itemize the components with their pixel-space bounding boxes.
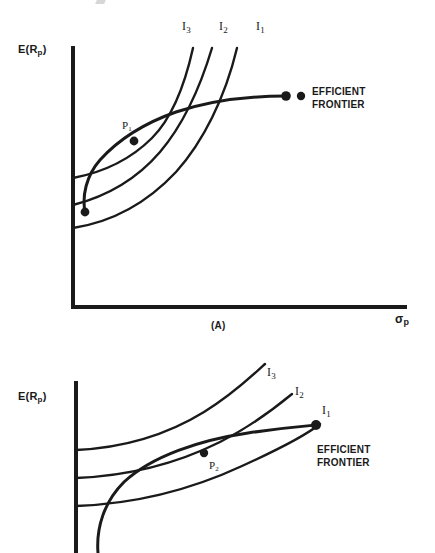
panel-a-y-axis-label: E(Rp) (18, 43, 47, 58)
panel-a-frontier-label-line2: FRONTIER (312, 99, 365, 112)
panel-a-caption: (A) (211, 320, 225, 331)
panel-b-curve-label-i2: I2 (295, 385, 304, 400)
panel-b-tangency-point (200, 449, 208, 457)
panel-a-minimum-variance-point (81, 208, 90, 217)
panel-b-curve-i3 (76, 364, 265, 450)
panel-a-curve-label-i3: I3 (182, 20, 191, 35)
panel-b: E(Rp) I3 I2 I1 P2 EFFICIENT FRONTIER (0, 340, 435, 553)
panel-b-curve-label-i3: I3 (267, 366, 276, 381)
panel-a-curve-label-i1: I1 (256, 20, 265, 35)
panel-a-frontier-endpoint (281, 91, 291, 101)
panel-b-frontier-label-line2: FRONTIER (317, 457, 370, 470)
panel-a-frontier-label-line1: EFFICIENT (312, 86, 365, 99)
panel-b-y-axis-label: E(Rp) (18, 390, 47, 405)
panel-a-tangency-point (130, 137, 139, 146)
panel-b-frontier-label-line1: EFFICIENT (317, 444, 370, 457)
panel-a-frontier-label-marker (297, 92, 305, 100)
panel-a: E(Rp) I3 I2 I1 P1 EFFICIENT FRONTIER (A)… (0, 0, 435, 340)
panel-a-curve-label-i2: I2 (219, 20, 228, 35)
panel-b-curve-i2 (76, 394, 292, 478)
panel-a-plot (0, 0, 435, 340)
panel-b-frontier-endpoint (311, 420, 321, 430)
panel-b-tangency-point-label: P2 (209, 459, 219, 474)
panel-b-efficient-frontier-label: EFFICIENT FRONTIER (317, 444, 370, 469)
panel-a-x-axis-label: σp (395, 313, 409, 327)
efficient-frontier-figure: E(Rp) I3 I2 I1 P1 EFFICIENT FRONTIER (A)… (0, 0, 435, 553)
panel-b-efficient-frontier (98, 425, 316, 553)
panel-a-efficient-frontier-label: EFFICIENT FRONTIER (312, 86, 365, 111)
panel-a-curve-i1 (73, 48, 237, 228)
panel-a-tangency-point-label: P1 (122, 119, 132, 134)
panel-b-curve-label-i1: I1 (322, 404, 331, 419)
